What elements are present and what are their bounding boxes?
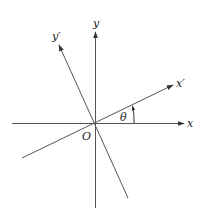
origin-label: O [82, 130, 91, 143]
rotated-axes-diagram: y y′ x′ x θ O [0, 0, 205, 221]
x-prime-axis-label: x′ [176, 77, 185, 90]
x-prime-axis [22, 85, 173, 158]
angle-arc [133, 106, 135, 124]
y-prime-axis-label: y′ [51, 30, 61, 43]
y-axis-label: y [92, 17, 100, 30]
x-axis-label: x [187, 117, 194, 130]
theta-label: θ [120, 111, 127, 124]
y-prime-axis [59, 45, 128, 198]
